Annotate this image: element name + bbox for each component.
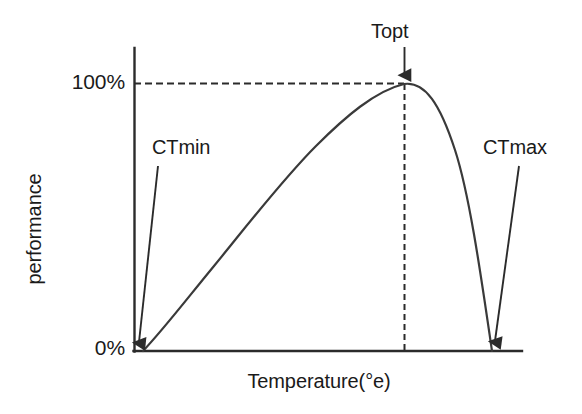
ctmin-arrow	[139, 166, 158, 342]
annotation-label-ctmin: CTmin	[152, 137, 210, 157]
y-axis-tick-label-0-percent: 0%	[95, 337, 125, 358]
figure-canvas	[0, 0, 582, 414]
annotation-label-ctmax: CTmax	[483, 137, 547, 157]
x-axis-title: Temperature(°e)	[0, 371, 582, 391]
y-axis-title: performance	[24, 149, 44, 309]
y-axis-tick-label-100-percent: 100%	[72, 71, 125, 92]
ctmax-arrow	[495, 166, 519, 341]
thermal-performance-figure: 100% 0% performance Temperature(°e) CTmi…	[0, 0, 582, 414]
annotation-label-topt: Topt	[371, 21, 408, 41]
performance-curve	[143, 84, 492, 351]
